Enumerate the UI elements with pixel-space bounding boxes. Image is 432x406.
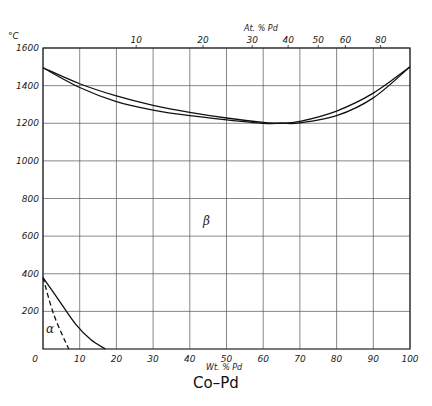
top-axis-tick-labels: 10203040506080 [130, 35, 386, 48]
y-tick-label: 200 [22, 306, 39, 316]
bottom-axis-title: Wt. % Pd [206, 363, 243, 372]
y-tick-label: 1400 [16, 81, 39, 91]
y-tick-label: 600 [22, 231, 39, 241]
y-axis-tick-labels: 2004006008001000120014001600 [16, 43, 39, 316]
x-tick-label: 60 [257, 354, 269, 364]
y-tick-label: 1600 [16, 43, 39, 53]
x-tick-label: 30 [147, 354, 159, 364]
top-tick-label: 30 [246, 35, 258, 45]
y-tick-label: 1000 [16, 156, 39, 166]
x-tick-label: 70 [294, 354, 306, 364]
curve--phase-boundary [43, 278, 69, 349]
x-tick-label: 0 [32, 354, 38, 364]
top-tick-label: 50 [313, 35, 325, 45]
x-tick-label: 100 [401, 354, 418, 364]
x-tick-label: 90 [368, 354, 380, 364]
phase-label-alpha: α [46, 322, 54, 336]
x-tick-label: 20 [111, 354, 123, 364]
y-tick-label: 800 [22, 194, 39, 204]
y-tick-label: 1200 [16, 118, 39, 128]
top-tick-label: 40 [282, 35, 294, 45]
y-axis-unit: °C [8, 31, 20, 41]
chart-caption: Co–Pd [193, 374, 239, 392]
top-axis-title: At. % Pd [243, 24, 279, 33]
y-tick-label: 400 [22, 269, 39, 279]
top-tick-label: 20 [197, 35, 209, 45]
x-tick-label: 80 [331, 354, 343, 364]
x-tick-label: 10 [74, 354, 86, 364]
top-tick-label: 80 [375, 35, 387, 45]
phase-diagram-chart: 2004006008001000120014001600 01020304050… [0, 0, 432, 406]
top-tick-label: 10 [130, 35, 142, 45]
top-tick-label: 60 [340, 35, 352, 45]
phase-label-beta: β [202, 214, 210, 228]
curve-magnetic-allotropic-boundary [43, 278, 105, 349]
x-tick-label: 40 [184, 354, 196, 364]
grid-lines [43, 48, 410, 349]
